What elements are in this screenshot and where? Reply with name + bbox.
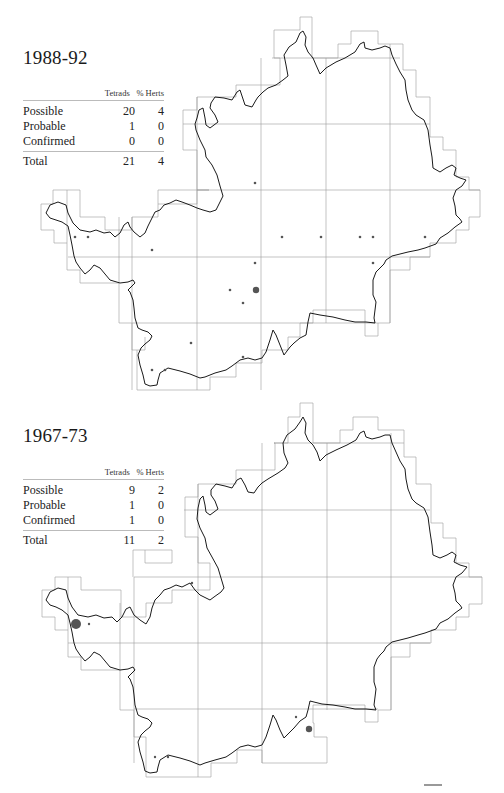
stats-header: Tetrads % Herts xyxy=(23,463,164,480)
period-title: 1967-73 xyxy=(23,425,88,447)
stats-row-probable: Probable 1 0 xyxy=(23,119,164,134)
probable-record-dot xyxy=(253,287,259,293)
map-panel-1967-73: 1967-73 Tetrads % Herts Possible 9 2 Pro… xyxy=(0,395,504,793)
stats-header: Tetrads % Herts xyxy=(23,84,164,101)
distribution-map-1967-73 xyxy=(0,395,504,793)
tetrad-grid xyxy=(42,403,482,777)
scale-bar xyxy=(424,784,442,786)
header-pct-herts: % Herts xyxy=(130,467,164,477)
map-panel-1988-92: 1988-92 Tetrads % Herts Possible 20 4 Pr… xyxy=(0,0,504,395)
stats-row-probable: Probable 1 0 xyxy=(23,498,164,513)
stats-row-confirmed: Confirmed 0 0 xyxy=(23,134,164,149)
stats-row-possible: Possible 20 4 xyxy=(23,104,164,119)
record-dots xyxy=(74,182,427,372)
stats-table: Tetrads % Herts Possible 9 2 Probable 1 … xyxy=(23,463,164,548)
header-tetrads: Tetrads xyxy=(90,467,130,477)
stats-row-confirmed: Confirmed 1 0 xyxy=(23,513,164,528)
header-tetrads: Tetrads xyxy=(90,88,130,98)
confirmed-record-dot xyxy=(71,619,81,629)
stats-table: Tetrads % Herts Possible 20 4 Probable 1… xyxy=(23,84,164,169)
header-pct-herts: % Herts xyxy=(130,88,164,98)
tetrad-grid xyxy=(41,17,480,390)
stats-row-total: Total 21 4 xyxy=(23,151,164,169)
probable-record-dot xyxy=(306,726,312,732)
stats-row-possible: Possible 9 2 xyxy=(23,483,164,498)
period-title: 1988-92 xyxy=(23,47,88,69)
stats-row-total: Total 11 2 xyxy=(23,530,164,548)
